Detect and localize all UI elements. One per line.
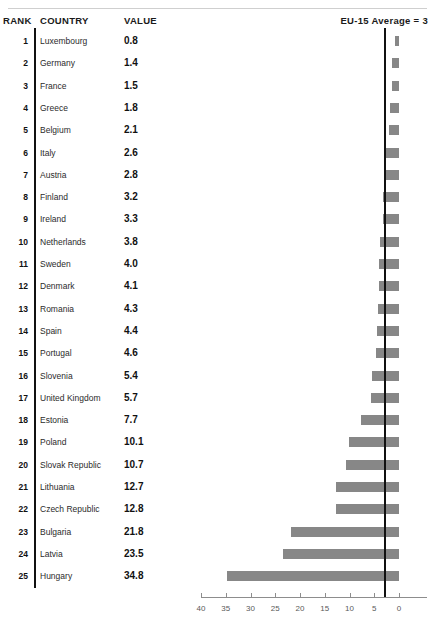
cell-value: 0.8	[124, 30, 138, 52]
bar-latvia	[283, 549, 399, 559]
x-axis-tick	[300, 593, 301, 598]
cell-country: Estonia	[40, 409, 68, 431]
cell-value: 1.4	[124, 52, 138, 74]
x-axis-tick-label: 15	[310, 604, 340, 613]
cell-country: Hungary	[40, 565, 72, 587]
x-axis-tick-label: 35	[211, 604, 241, 613]
cell-value: 5.7	[124, 387, 138, 409]
cell-value: 12.8	[124, 498, 143, 520]
cell-country: Slovak Republic	[40, 454, 101, 476]
x-axis-tick	[201, 593, 202, 598]
table-row: 1Luxembourg0.8	[0, 30, 200, 52]
cell-value: 12.7	[124, 476, 143, 498]
cell-value: 10.7	[124, 454, 143, 476]
bar-sweden	[379, 259, 399, 269]
x-axis-tick	[350, 593, 351, 598]
bar-spain	[377, 326, 399, 336]
ranking-chart: RANK COUNTRY VALUE EU-15 Average = 3 1Lu…	[0, 0, 435, 631]
table-row: 15Portugal4.6	[0, 342, 200, 364]
cell-value: 34.8	[124, 565, 143, 587]
cell-country: Spain	[40, 320, 62, 342]
cell-country: Luxembourg	[40, 30, 87, 52]
cell-value: 4.1	[124, 275, 138, 297]
cell-country: Poland	[40, 431, 66, 453]
table-row: 18Estonia7.7	[0, 409, 200, 431]
table-row: 6Italy2.6	[0, 142, 200, 164]
cell-value: 21.8	[124, 521, 143, 543]
x-axis-tick-label: 20	[285, 604, 315, 613]
cell-rank: 3	[0, 75, 28, 97]
column-header-country: COUNTRY	[40, 15, 89, 26]
bar-slovenia	[372, 371, 399, 381]
x-axis-tick-label: 25	[260, 604, 290, 613]
cell-rank: 12	[0, 275, 28, 297]
cell-value: 2.1	[124, 119, 138, 141]
cell-country: Denmark	[40, 275, 74, 297]
bar-greece	[390, 103, 399, 113]
bar-bulgaria	[291, 527, 399, 537]
table-row: 20Slovak Republic10.7	[0, 454, 200, 476]
cell-country: Bulgaria	[40, 521, 71, 543]
bar-ireland	[383, 214, 399, 224]
cell-rank: 24	[0, 543, 28, 565]
bar-estonia	[361, 415, 399, 425]
bar-united-kingdom	[371, 393, 399, 403]
bar-slovak-republic	[346, 460, 399, 470]
cell-rank: 11	[0, 253, 28, 275]
table-row: 8Finland3.2	[0, 186, 200, 208]
cell-rank: 22	[0, 498, 28, 520]
table-row: 24Latvia23.5	[0, 543, 200, 565]
cell-country: Finland	[40, 186, 68, 208]
cell-rank: 19	[0, 431, 28, 453]
cell-rank: 8	[0, 186, 28, 208]
x-axis-tick-label: 10	[335, 604, 365, 613]
cell-value: 23.5	[124, 543, 143, 565]
table-row: 25Hungary34.8	[0, 565, 200, 587]
cell-value: 4.4	[124, 320, 138, 342]
cell-rank: 7	[0, 164, 28, 186]
table-row: 21Lithuania12.7	[0, 476, 200, 498]
cell-rank: 25	[0, 565, 28, 587]
cell-value: 4.6	[124, 342, 138, 364]
table-row: 16Slovenia5.4	[0, 365, 200, 387]
table-row: 11Sweden4.0	[0, 253, 200, 275]
cell-value: 4.3	[124, 298, 138, 320]
table-row: 5Belgium2.1	[0, 119, 200, 141]
table-row: 3France1.5	[0, 75, 200, 97]
x-axis-tick-label: 30	[236, 604, 266, 613]
x-axis-tick	[275, 593, 276, 598]
x-axis-tick	[399, 593, 400, 598]
cell-value: 3.8	[124, 231, 138, 253]
cell-value: 4.0	[124, 253, 138, 275]
table-row: 2Germany1.4	[0, 52, 200, 74]
cell-country: Netherlands	[40, 231, 86, 253]
table-row: 4Greece1.8	[0, 97, 200, 119]
column-header-value: VALUE	[124, 15, 157, 26]
cell-rank: 17	[0, 387, 28, 409]
bar-germany	[392, 58, 399, 68]
cell-rank: 1	[0, 30, 28, 52]
cell-rank: 2	[0, 52, 28, 74]
cell-country: Lithuania	[40, 476, 75, 498]
cell-country: Latvia	[40, 543, 63, 565]
bar-netherlands	[380, 237, 399, 247]
eu15-average-label: EU-15 Average = 3	[340, 15, 428, 26]
bar-hungary	[227, 571, 399, 581]
bar-belgium	[389, 125, 399, 135]
cell-value: 1.5	[124, 75, 138, 97]
bar-italy	[386, 148, 399, 158]
table-row: 17United Kingdom5.7	[0, 387, 200, 409]
column-header-rank: RANK	[3, 15, 32, 26]
cell-rank: 18	[0, 409, 28, 431]
cell-rank: 16	[0, 365, 28, 387]
cell-rank: 9	[0, 208, 28, 230]
top-divider-rule	[8, 8, 427, 9]
cell-value: 2.8	[124, 164, 138, 186]
cell-rank: 20	[0, 454, 28, 476]
table-row: 9Ireland3.3	[0, 208, 200, 230]
cell-country: Italy	[40, 142, 56, 164]
cell-rank: 10	[0, 231, 28, 253]
x-axis-tick	[374, 593, 375, 598]
cell-rank: 14	[0, 320, 28, 342]
cell-country: Portugal	[40, 342, 72, 364]
